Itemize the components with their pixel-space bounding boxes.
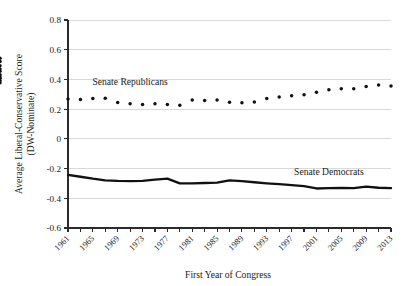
chart-container: 0.80.60.40.20-0.2-0.4-0.6 19611965196919… (0, 0, 404, 286)
liberal-conservative-score-chart: 0.80.60.40.20-0.2-0.4-0.6 19611965196919… (0, 0, 404, 286)
data-point-republicans-1985 (215, 98, 219, 102)
annotation-senate-republicans: Senate Republicans (92, 76, 168, 87)
y-tick-label-0: 0.8 (50, 15, 62, 25)
y-tick-label-7: -0.6 (46, 223, 61, 233)
data-point-republicans-1999 (302, 93, 306, 97)
data-point-republicans-1975 (153, 102, 157, 106)
y-tick-label-2: 0.4 (50, 75, 62, 85)
data-point-republicans-1969 (116, 101, 120, 105)
data-point-republicans-1997 (290, 94, 294, 98)
y-tick-label-5: -0.2 (46, 164, 61, 174)
y-axis-title-line-2: (DW-Nominate) (25, 93, 37, 156)
data-point-republicans-1991 (253, 100, 257, 104)
data-point-republicans-2003 (327, 88, 331, 92)
data-point-republicans-2001 (315, 91, 319, 95)
data-point-republicans-1983 (203, 99, 207, 103)
data-point-republicans-2009 (364, 85, 368, 89)
data-point-republicans-2007 (352, 87, 356, 91)
x-axis-title: First Year of Congress (185, 269, 271, 280)
annotation-senate-democrats: Senate Democrats (294, 166, 364, 177)
data-point-republicans-1979 (178, 104, 182, 108)
data-point-republicans-1989 (240, 101, 244, 105)
data-point-republicans-1981 (190, 98, 194, 102)
data-point-republicans-1987 (228, 100, 232, 104)
y-tick-label-1: 0.6 (50, 45, 62, 55)
data-point-republicans-1995 (277, 95, 281, 99)
data-point-republicans-1993 (265, 97, 269, 101)
data-point-republicans-2013 (389, 84, 393, 88)
data-point-republicans-1967 (104, 97, 108, 101)
data-point-republicans-1963 (79, 98, 83, 102)
data-point-republicans-1973 (141, 103, 145, 107)
data-point-republicans-2011 (377, 83, 381, 87)
data-point-republicans-1971 (128, 102, 132, 106)
y-tick-label-6: -0.4 (46, 194, 61, 204)
y-tick-label-4: 0 (56, 134, 61, 144)
data-point-republicans-1977 (166, 103, 170, 107)
data-point-republicans-2005 (340, 87, 344, 91)
y-axis-title-line-1: Average Liberal-Conservative Score (13, 54, 24, 194)
data-point-republicans-1965 (91, 97, 95, 101)
data-point-republicans-1961 (66, 97, 70, 101)
y-tick-label-3: 0.2 (50, 105, 62, 115)
